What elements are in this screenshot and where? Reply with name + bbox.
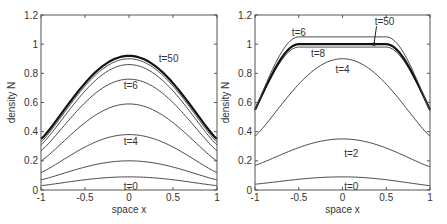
curve-t=2 [255,139,430,167]
curve-curve-7 [41,59,217,142]
curve-label: t=6 [292,27,307,38]
curves [255,37,430,186]
x-tick-label: 0 [340,192,346,203]
y-tick-label: 1.2 [24,10,38,21]
curve-label: t=4 [124,136,139,147]
curve-label: t=8 [311,48,326,59]
curve-label: t=50 [375,16,395,27]
curve-label: t=4 [335,64,350,75]
x-tick-label: -0.5 [290,192,308,203]
curve-t=50 [41,56,217,139]
figure: 00.20.40.60.811.2-1-0.500.51space xdensi… [0,0,447,224]
curve-label: t=0 [344,181,359,192]
x-tick-label: 0 [126,192,132,203]
x-tick-label: 0.5 [166,192,180,203]
x-tick-label: 1 [214,192,220,203]
left-panel: 00.20.40.60.811.2-1-0.500.51space xdensi… [6,10,220,216]
x-tick-label: 1 [427,192,433,203]
y-tick-label: 0.2 [24,155,38,166]
y-axis-label: density N [6,82,17,124]
curve-t=8 [255,47,430,110]
annotation-arrow [374,26,377,44]
y-tick-label: 0.4 [238,126,252,137]
y-tick-label: 0.4 [24,126,38,137]
x-tick-label: -0.5 [76,192,94,203]
x-tick-label: -1 [37,192,46,203]
y-tick-label: 0.8 [24,68,38,79]
x-tick-label: -1 [251,192,260,203]
y-tick-label: 0.8 [238,68,252,79]
curves [41,56,217,186]
curve-label: t=6 [124,80,139,91]
y-tick-label: 1 [246,39,252,50]
y-tick-label: 0.2 [238,155,252,166]
arrow-head-icon [372,42,376,46]
curve-label: t=50 [159,53,179,64]
curve-label: t=2 [344,148,359,159]
y-tick-label: 1.2 [238,10,252,21]
y-tick-label: 0.6 [238,97,252,108]
curve-label: t=0 [124,181,139,192]
y-tick-label: 1 [32,39,38,50]
y-tick-label: 0.6 [24,97,38,108]
right-panel: 00.20.40.60.811.2-1-0.500.51space xdensi… [220,10,433,216]
axes-box [41,15,217,190]
axes-box [255,15,430,190]
curve-t=0 [255,177,430,186]
x-axis-label: space x [325,204,359,215]
x-axis-label: space x [112,204,146,215]
y-axis-label: density N [220,82,231,124]
x-tick-label: 0.5 [379,192,393,203]
